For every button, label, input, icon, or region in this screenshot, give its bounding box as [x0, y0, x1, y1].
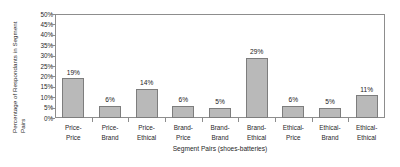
bar-group: 29%: [238, 14, 275, 118]
x-axis-category-line: Price: [275, 133, 312, 143]
x-axis-category-label: Brand-Ethical: [238, 123, 275, 142]
y-axis-tick-label: 25%: [23, 63, 53, 70]
bar: [356, 95, 378, 118]
x-axis-tick-mark: [312, 118, 313, 122]
x-axis-category-line: Price-: [128, 123, 165, 133]
bar: [99, 106, 121, 118]
y-axis-tick-label: 15%: [23, 83, 53, 90]
bar-value-label: 5%: [325, 98, 335, 106]
y-axis-tick-label: 20%: [23, 73, 53, 80]
x-axis-tick-mark: [202, 118, 203, 122]
x-axis-tick-mark: [275, 118, 276, 122]
bar: [136, 89, 158, 118]
x-axis-category-line: Price: [165, 133, 202, 143]
bar-group: 11%: [348, 14, 385, 118]
bar-value-label: 29%: [250, 48, 263, 56]
bar: [62, 78, 84, 118]
x-axis-tick-mark: [128, 118, 129, 122]
x-axis-category-line: Brand: [92, 133, 129, 143]
y-axis-tick-label: 0%: [23, 115, 53, 122]
x-axis-category-line: Ethical: [128, 133, 165, 143]
bar-group: 19%: [55, 14, 92, 118]
bar-value-label: 6%: [289, 96, 299, 104]
bar-group: 6%: [92, 14, 129, 118]
bar-value-label: 6%: [105, 96, 115, 104]
bar: [319, 108, 341, 118]
x-axis-tick-mark: [92, 118, 93, 122]
bar-value-label: 11%: [360, 86, 373, 94]
y-axis-tick-label: 5%: [23, 104, 53, 111]
bar-value-label: 19%: [67, 69, 80, 77]
x-axis-title: Segment Pairs (shoes-batteries): [55, 145, 385, 152]
x-axis-category-label: Ethical-Brand: [312, 123, 349, 142]
bar-group: 5%: [312, 14, 349, 118]
x-axis-category-label: Ethical-Price: [275, 123, 312, 142]
bar-value-label: 5%: [215, 98, 225, 106]
x-axis-category-line: Ethical: [238, 133, 275, 143]
x-axis-category-label: Brand-Price: [165, 123, 202, 142]
bar-chart: Percentage of Respondants in Segment Pai…: [0, 0, 400, 167]
y-axis-tick-label: 45%: [23, 21, 53, 28]
x-axis-category-line: Brand: [202, 133, 239, 143]
x-axis-category-line: Ethical-: [348, 123, 385, 133]
x-axis-category-label: Brand-Brand: [202, 123, 239, 142]
x-axis-category-line: Brand-: [238, 123, 275, 133]
bar: [246, 58, 268, 118]
y-axis-tick-label: 40%: [23, 31, 53, 38]
x-axis-category-line: Price-: [55, 123, 92, 133]
bar-series: 19%6%14%6%5%29%6%5%11%: [55, 14, 385, 118]
y-axis-tick-label: 10%: [23, 94, 53, 101]
x-axis-category-label: Price-Ethical: [128, 123, 165, 142]
y-axis-tick-label: 50%: [23, 11, 53, 18]
x-axis-category-line: Price: [55, 133, 92, 143]
bar-group: 5%: [202, 14, 239, 118]
x-axis-category-label: Ethical-Ethical: [348, 123, 385, 142]
x-axis-category-line: Brand-: [202, 123, 239, 133]
y-axis-tick-label: 30%: [23, 52, 53, 59]
x-axis-category-line: Ethical-: [275, 123, 312, 133]
x-axis-category-line: Brand: [312, 133, 349, 143]
x-axis-category-label: Price-Price: [55, 123, 92, 142]
bar: [209, 108, 231, 118]
bar-value-label: 14%: [140, 79, 153, 87]
bar-value-label: 6%: [179, 96, 189, 104]
x-axis-category-label: Price-Brand: [92, 123, 129, 142]
x-axis-category-line: Ethical: [348, 133, 385, 143]
x-axis-category-line: Ethical-: [312, 123, 349, 133]
bar-group: 6%: [275, 14, 312, 118]
bar-group: 6%: [165, 14, 202, 118]
x-axis-tick-mark: [165, 118, 166, 122]
x-axis-category-line: Brand-: [165, 123, 202, 133]
bar-group: 14%: [128, 14, 165, 118]
y-axis-tick-mark: [51, 118, 55, 119]
bar: [172, 106, 194, 118]
bar: [282, 106, 304, 118]
x-axis-tick-mark: [348, 118, 349, 122]
x-axis-tick-mark: [238, 118, 239, 122]
y-axis-tick-label: 35%: [23, 42, 53, 49]
x-axis-category-line: Price-: [92, 123, 129, 133]
y-axis-title-line-1: Percentage of Respondants in Segment: [11, 21, 18, 133]
